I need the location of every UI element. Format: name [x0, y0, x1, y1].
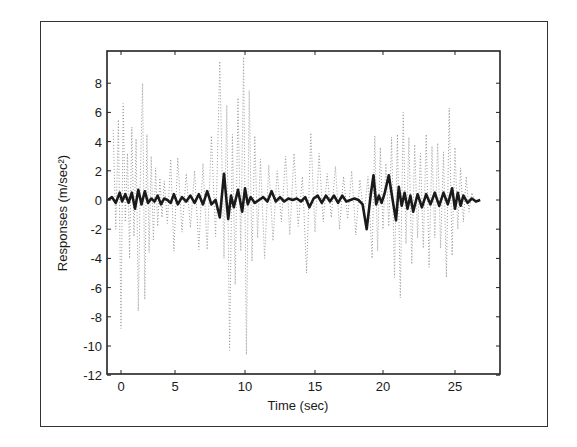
y-axis-label: Responses (m/sec²) — [55, 155, 70, 271]
y-tick-label: 0 — [95, 193, 102, 208]
x-tick-label: 20 — [376, 379, 390, 394]
x-tick-label: 25 — [448, 379, 462, 394]
y-tick-label: -4 — [90, 251, 102, 266]
x-tick-label: 10 — [238, 379, 252, 394]
x-axis-label: Time (sec) — [268, 398, 329, 413]
y-tick-label: -8 — [90, 310, 102, 325]
x-tick-label: 5 — [171, 379, 178, 394]
y-tick-label: -6 — [90, 281, 102, 296]
y-tick-label: 4 — [95, 135, 102, 150]
y-tick-label: -2 — [90, 222, 102, 237]
y-tick-label: 2 — [95, 164, 102, 179]
x-axis-ticks: 0510152025 — [117, 51, 462, 394]
x-tick-label: 15 — [308, 379, 322, 394]
chart: 0510152025 -12-10-8-6-4-202468 Time (sec… — [0, 0, 577, 447]
y-tick-label: 6 — [95, 105, 102, 120]
y-tick-label: -12 — [83, 368, 102, 383]
y-tick-label: 8 — [95, 76, 102, 91]
plot-area-frame — [107, 51, 500, 374]
x-tick-label: 0 — [117, 379, 124, 394]
y-tick-label: -10 — [83, 339, 102, 354]
